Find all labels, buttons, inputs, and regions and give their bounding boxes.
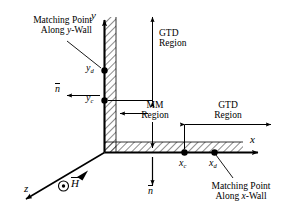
matching-y-line2: Along y-Wall [4, 25, 92, 35]
h-field-text: H [71, 178, 79, 190]
point-label-y-c-sub: c [90, 97, 93, 104]
mm-line2: Region [127, 110, 183, 120]
matching-x-line2: Along x-Wall [196, 191, 286, 201]
figure-corner-diagram: y x z yd yc xc xd Matching Point Along y… [0, 0, 287, 214]
label-normal-x-wall: n [148, 186, 153, 197]
annotation-mm-region: MM Region [127, 100, 183, 121]
dot-y-c [101, 97, 107, 103]
z-axis [26, 153, 105, 200]
dot-x-c [181, 149, 187, 155]
leader-matching-y [67, 41, 101, 68]
point-label-y-d: yd [86, 63, 94, 74]
matching-x-line1: Matching Point [196, 181, 286, 191]
label-h-field: H [71, 178, 79, 190]
point-label-y-c: yc [86, 93, 93, 104]
matching-x-italic: x [242, 191, 246, 201]
h-field-symbol [59, 181, 69, 191]
gtd-top-line1: GTD [159, 28, 186, 38]
gtd-right-line1: GTD [190, 100, 266, 110]
dot-y-d [101, 67, 107, 73]
annotation-gtd-region-top: GTD Region [159, 28, 186, 49]
point-label-y-d-sub: d [90, 67, 93, 74]
normal-y-wall-symbol: n [55, 84, 60, 95]
label-normal-y-wall: n [55, 84, 60, 95]
x-wall-hatch [105, 142, 243, 152]
point-label-x-d: xd [209, 158, 217, 169]
point-label-x-d-sub: d [213, 162, 216, 169]
dot-x-d [211, 149, 217, 155]
point-label-x-c-sub: c [183, 162, 186, 169]
normal-x-wall-symbol: n [148, 186, 153, 197]
annotation-matching-point-y-wall: Matching Point Along y-Wall [4, 15, 92, 36]
annotation-matching-point-x-wall: Matching Point Along x-Wall [196, 181, 286, 202]
point-label-x-c: xc [179, 158, 186, 169]
matching-y-line1: Matching Point [4, 15, 92, 25]
mm-line1: MM [127, 100, 183, 110]
gtd-top-line2: Region [159, 38, 186, 48]
matching-y-italic: y [67, 25, 71, 35]
annotation-gtd-region-right: GTD Region [190, 100, 266, 121]
leader-matching-x [216, 155, 233, 178]
z-axis-label: z [24, 183, 28, 195]
gtd-right-line2: Region [190, 110, 266, 120]
x-axis-label: x [250, 134, 255, 146]
y-wall-hatch [105, 17, 116, 153]
